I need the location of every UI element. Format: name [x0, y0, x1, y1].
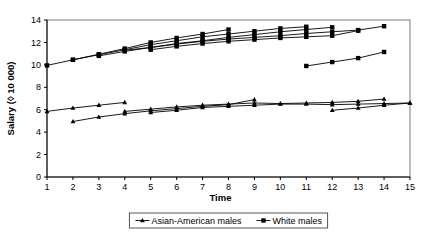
chart-legend: Asian-American malesWhite males [129, 213, 327, 228]
cohort-line-white-1 [71, 25, 309, 62]
data-point-white [382, 50, 386, 54]
y-tick-label-8: 8 [36, 82, 41, 92]
data-point-white [174, 44, 178, 48]
data-point-white [330, 25, 334, 29]
x-tick-label-11: 11 [302, 182, 311, 192]
x-axis-title: Time [209, 192, 231, 203]
data-point-asian [382, 96, 387, 100]
legend-marker-square [261, 218, 265, 222]
cohort-line-asian-0 [45, 100, 128, 113]
y-tick-label-6: 6 [36, 105, 41, 115]
data-point-white [45, 63, 49, 67]
data-point-asian [122, 100, 127, 104]
data-point-white [382, 24, 386, 28]
data-point-white [356, 56, 360, 60]
data-point-white [149, 48, 153, 52]
x-tick-label-9: 9 [252, 182, 257, 192]
plot-frame [47, 20, 410, 177]
x-tick-label-14: 14 [379, 182, 389, 192]
data-point-white [97, 54, 101, 58]
chart-figure: 02468101214 123456789101112131415 TimeSa… [0, 0, 432, 233]
x-tick-label-5: 5 [148, 182, 153, 192]
x-tick-label-7: 7 [200, 182, 205, 192]
cohort-line-white-2 [97, 25, 335, 58]
series-asian [45, 96, 413, 123]
data-point-white [330, 30, 334, 34]
legend-label-text: Asian-American males [151, 216, 242, 226]
data-point-white [278, 36, 282, 40]
data-point-white [330, 34, 334, 38]
x-axis: 123456789101112131415 [44, 177, 415, 192]
x-tick-label-12: 12 [327, 182, 337, 192]
x-tick-label-13: 13 [353, 182, 363, 192]
y-axis-title: Salary (◊ 10 000) [5, 62, 16, 136]
y-tick-label-14: 14 [31, 15, 41, 25]
legend-label-text: White males [272, 216, 322, 226]
x-tick-label-4: 4 [122, 182, 127, 192]
x-tick-label-2: 2 [70, 182, 75, 192]
y-axis: 02468101214 [31, 15, 47, 182]
data-point-white [252, 37, 256, 41]
data-point-white [123, 48, 127, 52]
data-point-white [200, 41, 204, 45]
data-point-white [304, 64, 308, 68]
series-white [45, 24, 386, 68]
x-tick-label-3: 3 [96, 182, 101, 192]
y-tick-label-12: 12 [31, 38, 41, 48]
data-point-white [71, 58, 75, 62]
y-tick-label-0: 0 [36, 172, 41, 182]
x-tick-label-8: 8 [226, 182, 231, 192]
x-tick-label-1: 1 [44, 182, 49, 192]
data-point-asian [408, 100, 413, 104]
salary-growth-line-chart: 02468101214 123456789101112131415 TimeSa… [0, 0, 432, 233]
data-series-layer [45, 24, 413, 123]
x-tick-label-10: 10 [275, 182, 285, 192]
data-point-white [330, 60, 334, 64]
y-tick-label-2: 2 [36, 150, 41, 160]
y-tick-label-10: 10 [31, 60, 41, 70]
data-point-white [278, 30, 282, 34]
data-point-white [226, 39, 230, 43]
data-point-white [304, 35, 308, 39]
x-tick-label-6: 6 [174, 182, 179, 192]
data-point-white [304, 27, 308, 31]
cohort-line-white-5 [304, 50, 386, 68]
data-point-white [226, 27, 230, 31]
x-tick-label-15: 15 [405, 182, 415, 192]
legend-item-asian-american-males[interactable]: Asian-American males [135, 216, 242, 226]
data-point-white [356, 28, 360, 32]
cohort-line-asian-1 [71, 97, 257, 123]
y-tick-label-4: 4 [36, 127, 41, 137]
data-point-white [200, 35, 204, 39]
